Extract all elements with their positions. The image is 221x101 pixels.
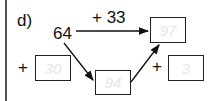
right-plus: + (152, 58, 162, 75)
right-value: 3 (182, 60, 190, 77)
middle-value: 94 (105, 74, 122, 91)
middle-box[interactable]: 94 (95, 70, 131, 95)
left-box[interactable]: 30 (35, 55, 71, 81)
result-value: 97 (160, 22, 177, 39)
right-box[interactable]: 3 (168, 55, 204, 81)
left-plus: + (18, 59, 28, 76)
left-value: 30 (45, 60, 62, 77)
result-box[interactable]: 97 (150, 17, 186, 43)
